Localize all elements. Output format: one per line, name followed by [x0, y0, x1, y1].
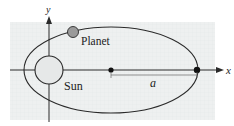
sun-icon — [35, 56, 63, 84]
planet-icon — [68, 27, 79, 38]
y-axis-label: y — [45, 4, 51, 15]
sun-label: Sun — [64, 79, 83, 93]
x-axis-arrow-icon — [216, 67, 224, 73]
center-dot — [108, 67, 113, 72]
x-axis-label: x — [225, 64, 231, 76]
y-axis-arrow-icon — [46, 16, 52, 24]
semi-major-axis-label: a — [150, 76, 156, 90]
planet-label: Planet — [81, 35, 111, 47]
orbit-diagram: x y Sun Planet a — [0, 0, 234, 126]
